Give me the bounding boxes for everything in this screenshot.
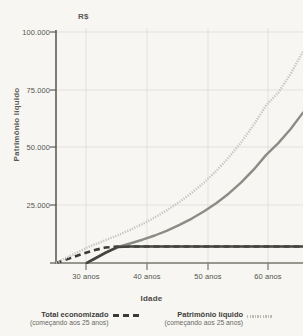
chart-figure: R$ Patrimônio líquido 100.000 75.000 50.… (0, 0, 303, 336)
dashed-line-swatch-icon (113, 314, 139, 317)
x-tick-label-30: 30 anos (56, 272, 116, 281)
x-axis-title: Idade (0, 294, 303, 303)
legend-subtitle: (começando aos 25 anos) (165, 319, 244, 327)
legend-text-block: Patrimônio líquido (começando aos 25 ano… (165, 310, 244, 328)
legend-title: Total economizado (30, 310, 109, 319)
plot-area (0, 0, 303, 336)
gridlines-horizontal (56, 32, 303, 205)
x-tick-label-60: 60 anos (238, 272, 298, 281)
x-axis-ticks (86, 263, 268, 270)
series-line-3 (87, 247, 303, 263)
legend-title: Patrimônio líquido (165, 310, 244, 319)
x-tick-label-40: 40 anos (117, 272, 177, 281)
chart-legend: Total economizado (começando aos 25 anos… (0, 310, 303, 328)
x-tick-label-50: 50 anos (178, 272, 238, 281)
gridlines-vertical (86, 28, 268, 263)
series-line-2 (87, 113, 303, 263)
legend-item-patrimonio-liquido: Patrimônio líquido (começando aos 25 ano… (165, 310, 274, 328)
dotted-line-swatch-icon (247, 315, 273, 318)
y-axis-ticks (50, 32, 56, 205)
legend-text-block: Total economizado (começando aos 25 anos… (30, 310, 109, 328)
data-series-group (56, 52, 303, 264)
legend-subtitle: (começando aos 25 anos) (30, 319, 109, 327)
series-line-1 (56, 52, 303, 264)
legend-item-total-economizado: Total economizado (começando aos 25 anos… (30, 310, 139, 328)
